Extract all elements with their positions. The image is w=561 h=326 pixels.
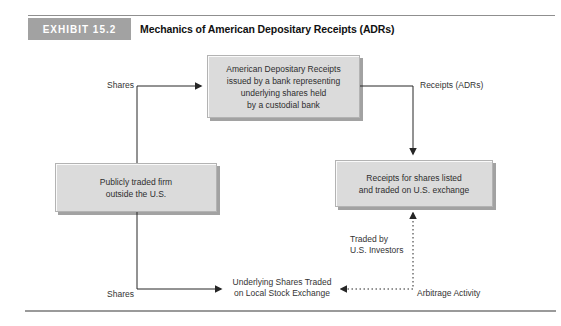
box-us-exchange: Receipts for shares listed and traded on… xyxy=(335,160,493,207)
connector-adr-bank-to-exchange xyxy=(360,86,413,154)
connector-shares-to-adr-bank xyxy=(137,86,201,163)
top-rule xyxy=(28,15,555,16)
box-foreign-firm: Publicly traded firm outside the U.S. xyxy=(55,163,217,212)
label-traded-by-us-investors: Traded by U.S. Investors xyxy=(350,234,403,256)
label-underlying-shares: Underlying Shares Traded on Local Stock … xyxy=(229,277,335,299)
label-arbitrage-activity: Arbitrage Activity xyxy=(417,288,480,299)
box-adr-bank: American Depositary Receipts issued by a… xyxy=(207,55,360,118)
connector-shares-to-local-exchange xyxy=(137,212,221,289)
label-shares-bottom: Shares xyxy=(98,289,134,300)
exhibit-figure: EXHIBIT 15.2 Mechanics of American Depos… xyxy=(0,0,561,326)
label-receipts-adrs: Receipts (ADRs) xyxy=(420,80,483,91)
exhibit-badge: EXHIBIT 15.2 xyxy=(28,18,131,40)
bottom-rule xyxy=(25,310,556,312)
exhibit-title: Mechanics of American Depositary Receipt… xyxy=(140,18,394,40)
label-shares-top: Shares xyxy=(94,80,134,91)
